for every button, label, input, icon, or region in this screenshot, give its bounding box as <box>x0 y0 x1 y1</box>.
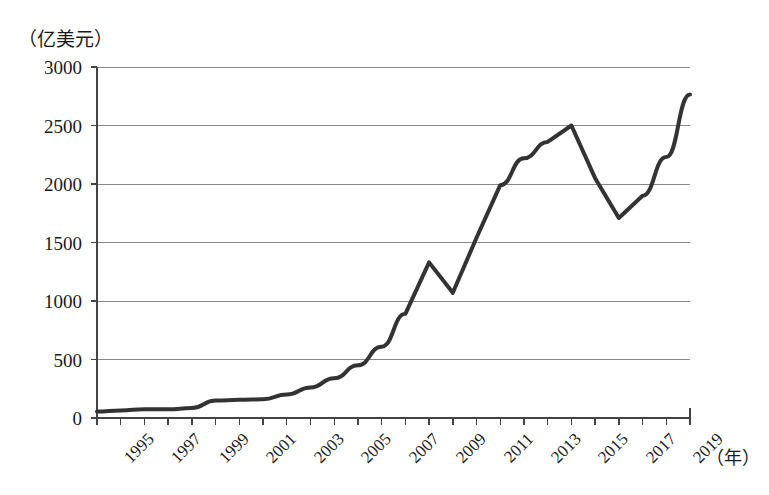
data-series-line <box>97 94 690 411</box>
line-chart: （亿美元） （年） 050010001500200025003000 19951… <box>0 0 769 495</box>
axis-tick-marks <box>91 67 690 425</box>
plot-area <box>0 0 769 495</box>
gridlines <box>97 67 690 360</box>
